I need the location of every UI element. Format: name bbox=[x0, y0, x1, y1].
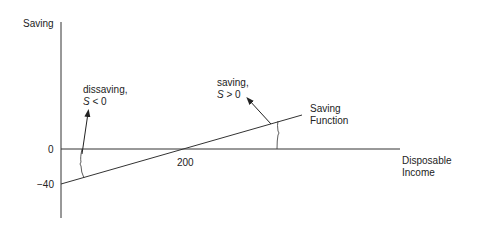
saving-diagram bbox=[0, 0, 478, 231]
function-line2: Function bbox=[310, 115, 348, 127]
xlabel-line1: Disposable bbox=[402, 155, 451, 167]
dissaving-var: S bbox=[83, 96, 90, 107]
saving-label: saving, S > 0 bbox=[217, 77, 249, 101]
tick-200: 200 bbox=[177, 157, 194, 169]
saving-arrow bbox=[249, 100, 271, 124]
tick-neg40: −40 bbox=[37, 179, 54, 191]
saving-brace bbox=[277, 121, 279, 149]
y-axis-label: Saving bbox=[23, 18, 54, 30]
xlabel-line2: Income bbox=[402, 167, 451, 179]
dissaving-label: dissaving, S < 0 bbox=[83, 84, 127, 108]
dissaving-rel: < 0 bbox=[90, 96, 107, 107]
saving-rel: > 0 bbox=[224, 89, 241, 100]
saving-var: S bbox=[217, 89, 224, 100]
dissaving-arrow bbox=[82, 113, 88, 154]
saving-function-label: Saving Function bbox=[310, 103, 348, 127]
dissaving-text: dissaving, bbox=[83, 84, 127, 96]
function-line1: Saving bbox=[310, 103, 348, 115]
saving-text: saving, bbox=[217, 77, 249, 89]
tick-zero: 0 bbox=[48, 144, 54, 156]
x-axis-label: Disposable Income bbox=[402, 155, 451, 179]
